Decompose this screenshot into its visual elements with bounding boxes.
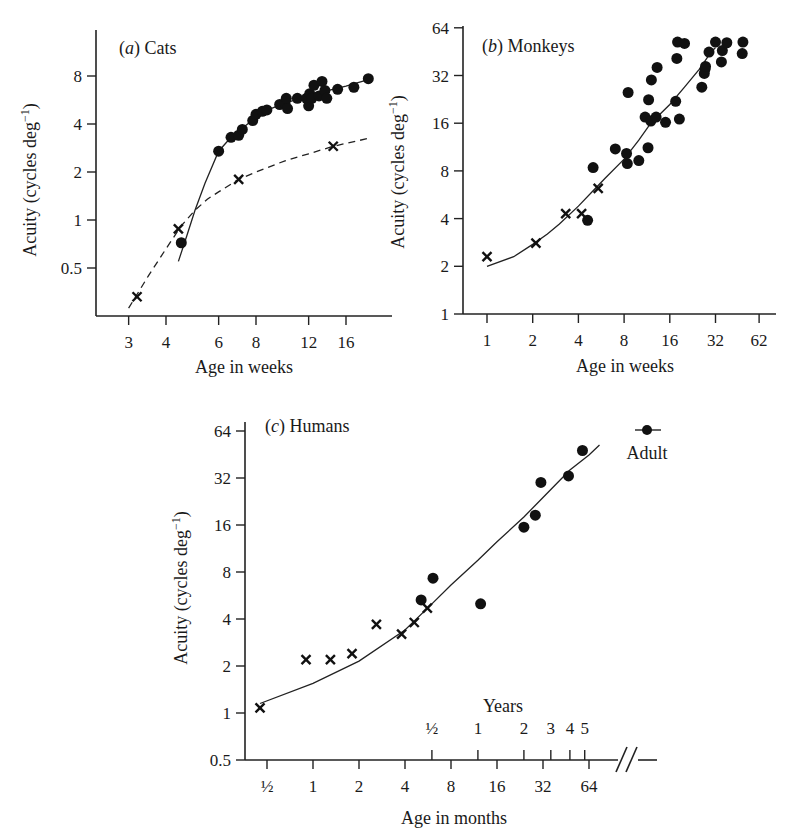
cross-marker	[256, 703, 265, 712]
x-tick-label: 8	[447, 777, 456, 796]
year-tick-label: ½	[426, 719, 439, 738]
x-tick-label: 1	[309, 777, 318, 796]
x-tick-label: 64	[581, 777, 599, 796]
cross-marker	[326, 655, 335, 664]
humans-y-ticks: 0.51248163264	[210, 422, 245, 770]
monkeys-panel-title: (b) Monkeys	[482, 36, 575, 57]
x-tick-label: ½	[261, 777, 274, 796]
x-tick-label: 16	[489, 777, 506, 796]
dot-marker	[428, 573, 439, 584]
y-tick-label: 8	[441, 162, 450, 181]
year-tick-label: 3	[547, 719, 556, 738]
dot-marker	[176, 237, 187, 248]
dot-marker	[332, 84, 343, 95]
x-tick-label: 16	[661, 331, 678, 350]
x-tick-label: 3	[124, 333, 133, 352]
cross-marker	[234, 175, 243, 184]
dot-marker	[261, 104, 272, 115]
x-tick-label: 16	[338, 333, 355, 352]
x-tick-label: 8	[252, 333, 261, 352]
cats-fit-curves	[129, 80, 369, 309]
cross-marker	[302, 655, 311, 664]
panel-humans-chart: 0.51248163264 ½1248163264 ½12345 (c) Hum…	[169, 416, 668, 828]
dot-marker	[737, 37, 748, 48]
dot-marker	[651, 112, 662, 123]
cross-marker	[348, 649, 357, 658]
dot-marker	[281, 93, 292, 104]
x-tick-label: 1	[483, 331, 492, 350]
humans-y-axis-label: Acuity (cycles deg−1)	[169, 511, 192, 665]
cross-marker	[483, 252, 492, 261]
solid-fit-curve	[487, 48, 716, 267]
x-tick-label: 2	[528, 331, 537, 350]
solid-fit-curve	[178, 80, 368, 262]
dot-marker	[670, 96, 681, 107]
dot-marker	[652, 62, 663, 73]
humans-panel-title: (c) Humans	[265, 416, 350, 437]
y-tick-label: 64	[214, 422, 232, 441]
dot-marker	[348, 82, 359, 93]
dot-marker	[321, 93, 332, 104]
cross-marker	[561, 209, 570, 218]
dot-marker	[674, 114, 685, 125]
dot-marker	[679, 38, 690, 49]
monkeys-data-points	[483, 37, 749, 262]
cross-marker	[410, 618, 419, 627]
y-tick-label: 1	[74, 211, 83, 230]
year-tick-label: 5	[580, 719, 589, 738]
y-tick-label: 2	[223, 657, 232, 676]
humans-year-ticks: ½12345	[426, 719, 589, 760]
x-tick-label: 62	[751, 331, 768, 350]
cats-y-axis-label: Acuity (cycles deg−1)	[18, 103, 41, 257]
dot-marker	[577, 445, 588, 456]
dot-marker	[610, 143, 621, 154]
dot-marker	[563, 470, 574, 481]
monkeys-y-axis-label: Acuity (cycles deg−1)	[386, 95, 409, 249]
dot-marker	[416, 594, 427, 605]
years-axis-label: Years	[483, 696, 523, 716]
cross-marker	[174, 224, 183, 233]
y-tick-label: 2	[441, 257, 450, 276]
dot-marker	[518, 522, 529, 533]
dashed-fit-curve	[129, 138, 369, 308]
monkeys-fit-curves	[487, 48, 716, 267]
x-tick-label: 4	[574, 331, 583, 350]
humans-x-ticks: ½1248163264	[261, 760, 598, 796]
y-tick-label: 0.5	[61, 259, 82, 278]
y-tick-label: 16	[214, 516, 231, 535]
y-tick-label: 32	[432, 67, 449, 86]
cross-marker	[329, 142, 338, 151]
dot-marker	[282, 103, 293, 114]
y-tick-label: 1	[441, 305, 450, 324]
year-tick-label: 2	[520, 719, 529, 738]
panel-monkeys-chart: 1248163264 1248163262 (b) Monkeys Age in…	[386, 19, 776, 376]
dot-marker	[633, 155, 644, 166]
dot-marker	[704, 47, 715, 58]
humans-x-axis-label: Age in months	[401, 808, 507, 828]
y-tick-label: 4	[74, 115, 83, 134]
dot-marker	[737, 48, 748, 59]
humans-data-points	[256, 445, 588, 712]
y-tick-label: 8	[74, 67, 83, 86]
dot-marker	[696, 82, 707, 93]
y-tick-label: 16	[432, 114, 449, 133]
dot-marker	[363, 73, 374, 84]
dot-marker	[721, 37, 732, 48]
cross-marker	[372, 620, 381, 629]
dot-marker	[643, 94, 654, 105]
dot-marker	[237, 124, 248, 135]
x-tick-label: 2	[355, 777, 364, 796]
dot-marker	[646, 74, 657, 85]
y-tick-label: 2	[74, 163, 83, 182]
cats-y-ticks: 0.51248	[61, 67, 96, 278]
dot-marker	[588, 162, 599, 173]
acuity-charts-figure: 0.51248 34681216 (a) Cats Age in weeks A…	[0, 0, 789, 838]
x-tick-label: 4	[401, 777, 410, 796]
y-tick-label: 32	[214, 469, 231, 488]
y-tick-label: 8	[223, 563, 232, 582]
axis-break-mark-2	[626, 747, 637, 772]
x-tick-label: 6	[214, 333, 223, 352]
cats-x-ticks: 34681216	[124, 316, 354, 352]
dot-marker	[700, 61, 711, 72]
dot-marker	[643, 142, 654, 153]
